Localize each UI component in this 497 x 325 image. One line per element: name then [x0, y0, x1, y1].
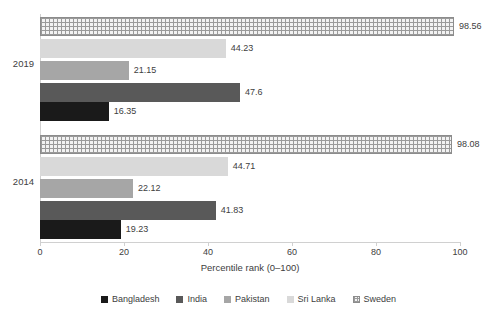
bar-bangladesh-2019[interactable] — [40, 102, 109, 121]
x-tick-mark-0 — [40, 242, 41, 246]
legend-item-pakistan[interactable]: Pakistan — [224, 294, 270, 304]
bar-value-label-srilanka-2019: 44.23 — [226, 39, 254, 58]
bar-value-label-bangladesh-2014: 19.23 — [121, 220, 149, 239]
x-tick-mark-80 — [376, 242, 377, 246]
sweden-swatch-icon — [353, 296, 360, 303]
x-tick-label-60: 60 — [287, 247, 297, 257]
bar-row-sweden-2019: 98.56 — [40, 17, 460, 36]
x-axis-title: Percentile rank (0–100) — [40, 262, 460, 273]
bar-row-srilanka-2014: 44.71 — [40, 157, 460, 176]
srilanka-swatch-icon — [287, 296, 294, 303]
bar-row-india-2019: 47.6 — [40, 83, 460, 102]
bar-srilanka-2014[interactable] — [40, 157, 228, 176]
legend-label-india: India — [187, 294, 207, 304]
x-tick-mark-60 — [292, 242, 293, 246]
bar-value-label-india-2014: 41.83 — [216, 201, 244, 220]
bar-row-srilanka-2019: 44.23 — [40, 39, 460, 58]
y-axis-category-2014: 2014 — [2, 176, 34, 187]
bar-row-sweden-2014: 98.08 — [40, 135, 460, 154]
pakistan-swatch-icon — [224, 296, 231, 303]
bar-india-2019[interactable] — [40, 83, 240, 102]
bar-sweden-2014[interactable] — [40, 135, 452, 154]
legend-label-bangladesh: Bangladesh — [112, 294, 160, 304]
bar-group-2019: 98.56 44.23 21.15 47.6 16.35 — [40, 14, 460, 124]
plot-area: 98.56 44.23 21.15 47.6 16.35 98.08 — [40, 14, 460, 242]
bar-row-bangladesh-2019: 16.35 — [40, 102, 460, 121]
bar-value-label-pakistan-2014: 22.12 — [133, 179, 161, 198]
x-tick-label-40: 40 — [203, 247, 213, 257]
x-tick-mark-40 — [208, 242, 209, 246]
x-tick-label-80: 80 — [371, 247, 381, 257]
x-tick-label-100: 100 — [452, 247, 467, 257]
x-axis-line — [40, 242, 460, 243]
bar-row-pakistan-2014: 22.12 — [40, 179, 460, 198]
india-swatch-icon — [176, 296, 183, 303]
bar-pakistan-2019[interactable] — [40, 61, 129, 80]
x-tick-label-20: 20 — [119, 247, 129, 257]
bangladesh-swatch-icon — [101, 296, 108, 303]
legend-item-india[interactable]: India — [176, 294, 207, 304]
bar-srilanka-2019[interactable] — [40, 39, 226, 58]
bar-row-bangladesh-2014: 19.23 — [40, 220, 460, 239]
bar-india-2014[interactable] — [40, 201, 216, 220]
bar-row-india-2014: 41.83 — [40, 201, 460, 220]
legend-label-sweden: Sweden — [364, 294, 397, 304]
legend-item-sweden[interactable]: Sweden — [353, 294, 397, 304]
bar-bangladesh-2014[interactable] — [40, 220, 121, 239]
bar-group-2014: 98.08 44.71 22.12 41.83 19.23 — [40, 132, 460, 242]
legend-label-srilanka: Sri Lanka — [298, 294, 336, 304]
bar-value-label-srilanka-2014: 44.71 — [228, 157, 256, 176]
bar-value-label-sweden-2019: 98.56 — [454, 17, 482, 36]
bar-value-label-india-2019: 47.6 — [240, 83, 263, 102]
bar-sweden-2019[interactable] — [40, 17, 454, 36]
legend-item-bangladesh[interactable]: Bangladesh — [101, 294, 160, 304]
y-axis-category-2019: 2019 — [2, 58, 34, 69]
bar-pakistan-2014[interactable] — [40, 179, 133, 198]
legend-label-pakistan: Pakistan — [235, 294, 270, 304]
bar-row-pakistan-2019: 21.15 — [40, 61, 460, 80]
x-tick-label-0: 0 — [37, 247, 42, 257]
bar-value-label-pakistan-2019: 21.15 — [129, 61, 157, 80]
bar-value-label-sweden-2014: 98.08 — [452, 135, 480, 154]
bar-chart: 2019 2014 98.56 44.23 21.15 47.6 16.3 — [0, 0, 497, 325]
x-tick-mark-100 — [460, 242, 461, 246]
legend-item-srilanka[interactable]: Sri Lanka — [287, 294, 336, 304]
bar-value-label-bangladesh-2019: 16.35 — [109, 102, 137, 121]
chart-legend: Bangladesh India Pakistan Sri Lanka Swed… — [0, 294, 497, 304]
x-tick-mark-20 — [124, 242, 125, 246]
